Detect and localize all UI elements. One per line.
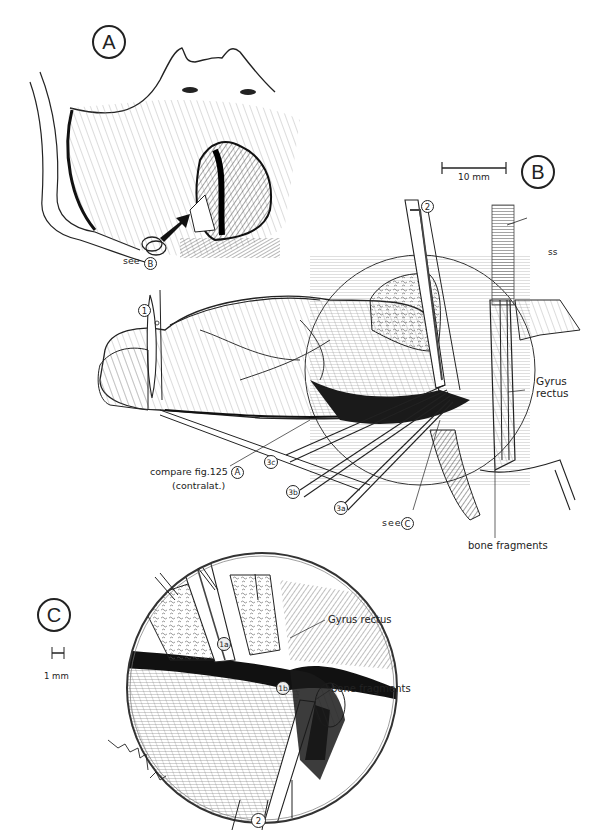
see-c-ref-text: C xyxy=(405,519,411,529)
instrument-1b-label: 1b xyxy=(278,684,288,693)
panel-c-badge: C xyxy=(37,598,71,632)
scale-bar-10mm-label: 10 mm xyxy=(458,172,490,182)
instrument-1-label: 1 xyxy=(142,306,147,316)
gyrus-rectus-label-b: Gyrus rectus xyxy=(536,375,569,399)
bone-fragments-label-b: bone fragments xyxy=(468,540,548,551)
compare-ref-text: A xyxy=(234,466,240,479)
ss-label: ss xyxy=(548,247,557,257)
panel-a-drawing xyxy=(30,48,300,262)
instrument-3c-badge: 3c xyxy=(264,455,278,469)
instrument-3a-label: 3a xyxy=(336,504,345,513)
panel-a-label: A xyxy=(102,31,115,54)
compare-ref-badge: A xyxy=(231,466,244,479)
instrument-1-badge: 1 xyxy=(138,304,151,317)
instrument-1a-label: 1a xyxy=(219,640,228,649)
bone-fragments-label-c: bone fragments xyxy=(331,683,411,694)
instrument-3a-badge: 3a xyxy=(334,501,348,515)
see-text: see xyxy=(123,255,140,266)
scale-bar-1mm-label: 1 mm xyxy=(44,671,69,681)
see-c-ref-badge: C xyxy=(401,517,414,530)
panel-a-see-label: see xyxy=(123,255,140,266)
instrument-1b-badge: 1b xyxy=(276,681,290,695)
panel-a-badge: A xyxy=(92,25,126,59)
panel-c-label: C xyxy=(47,604,61,627)
gyrus-rectus-label-c: Gyrus rectus xyxy=(328,614,392,625)
instrument-3b-label: 3b xyxy=(288,488,298,497)
panel-b-badge: B xyxy=(521,155,555,189)
panel-b-label: B xyxy=(531,161,544,184)
instrument-1a-badge: 1a xyxy=(217,637,231,651)
see-ref-text: B xyxy=(148,259,154,269)
instrument-2c-badge: 2 xyxy=(251,813,266,828)
see-c-label: see xyxy=(382,517,402,528)
compare-text: compare fig.125 xyxy=(150,466,228,477)
instrument-2c-label: 2 xyxy=(256,816,261,826)
gyrus-line2: rectus xyxy=(536,387,569,399)
instrument-2-label: 2 xyxy=(425,202,430,212)
see-c-text: see xyxy=(382,517,402,528)
compare-fig-label: compare fig.125 A (contralat.) xyxy=(150,465,244,492)
panel-a-see-ref-badge: B xyxy=(144,257,157,270)
gyrus-line1: Gyrus xyxy=(536,375,569,387)
illustration-canvas xyxy=(0,0,594,840)
instrument-3c-label: 3c xyxy=(267,458,276,467)
instrument-2-badge: 2 xyxy=(421,200,434,213)
contralat-text: (contralat.) xyxy=(150,479,244,492)
instrument-3b-badge: 3b xyxy=(286,485,300,499)
